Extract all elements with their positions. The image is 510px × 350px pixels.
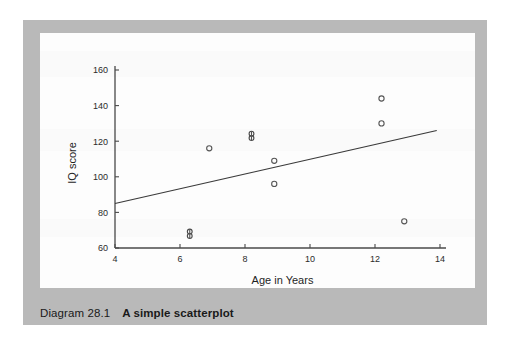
x-tick-label: 14 [435,254,445,264]
data-point-marker [272,158,277,163]
data-point [207,146,212,151]
data-point [379,121,384,126]
plot-panel: 6080100120140160468101214Age in YearsIQ … [40,33,475,288]
data-point [379,96,384,101]
x-tick-label: 6 [177,254,182,264]
x-tick-label: 4 [112,254,117,264]
data-point-marker [402,219,407,224]
y-tick-label: 100 [93,172,108,182]
data-point [272,158,277,163]
caption-title: A simple scatterplot [122,307,234,319]
y-tick-label: 140 [93,101,108,111]
y-axis-title: IQ score [66,142,78,184]
data-point-marker [379,121,384,126]
regression-line [115,131,437,204]
data-point [187,229,192,238]
x-tick-label: 10 [305,254,315,264]
figure-card: 6080100120140160468101214Age in YearsIQ … [23,20,487,325]
data-point [272,181,277,186]
x-axis-title: Age in Years [252,274,314,286]
data-point [249,131,254,140]
screenshot-root: 6080100120140160468101214Age in YearsIQ … [0,0,510,350]
y-tick-label: 60 [98,243,108,253]
data-point-marker [272,181,277,186]
x-tick-label: 12 [370,254,380,264]
scatterplot-chart: 6080100120140160468101214Age in YearsIQ … [40,33,475,288]
y-tick-label: 160 [93,65,108,75]
data-point-marker [379,96,384,101]
y-tick-label: 120 [93,137,108,147]
y-tick-label: 80 [98,208,108,218]
data-point-marker [207,146,212,151]
figure-caption: Diagram 28.1 A simple scatterplot [40,303,480,323]
data-point [402,219,407,224]
caption-label: Diagram 28.1 [40,307,110,319]
x-tick-label: 8 [242,254,247,264]
